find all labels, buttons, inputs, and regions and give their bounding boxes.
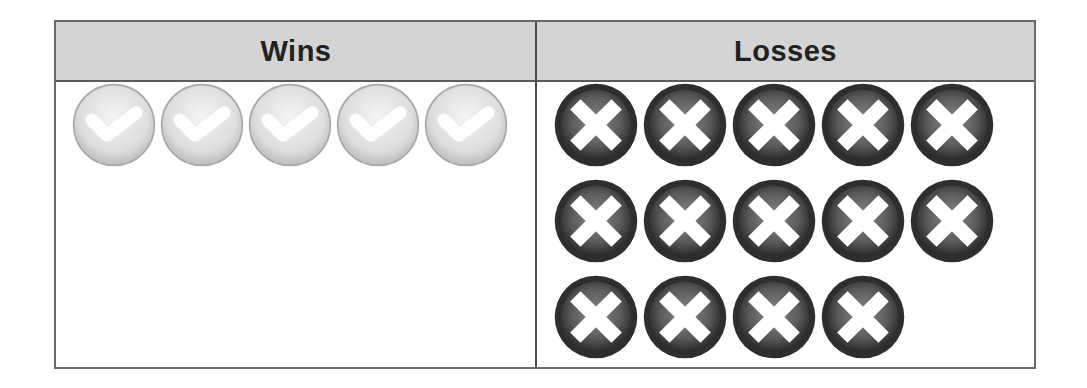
wins-header: Wins [56,22,536,82]
x-circle-icon [820,178,906,264]
column-divider [535,22,537,367]
check-circle-icon [423,82,509,168]
x-circle-icon [731,82,817,168]
check-circle-icon [247,82,333,168]
x-circle-icon [553,82,639,168]
x-circle-icon [553,274,639,360]
x-circle-icon [731,178,817,264]
x-circle-icon [820,82,906,168]
x-circle-icon [642,274,728,360]
x-circle-icon [909,82,995,168]
x-circle-icon [820,274,906,360]
check-circle-icon [71,82,157,168]
x-circle-icon [731,274,817,360]
x-circle-icon [909,178,995,264]
x-circle-icon [553,178,639,264]
x-circle-icon [642,178,728,264]
losses-header: Losses [537,22,1034,82]
x-circle-icon [642,82,728,168]
check-circle-icon [335,82,421,168]
check-circle-icon [159,82,245,168]
